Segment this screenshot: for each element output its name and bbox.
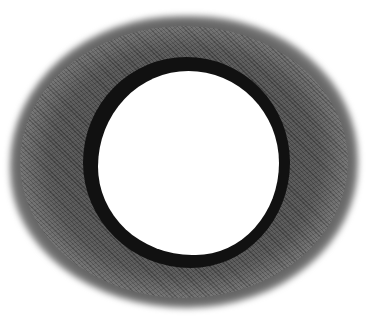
white-center bbox=[98, 71, 279, 255]
ring-illustration bbox=[0, 0, 378, 317]
